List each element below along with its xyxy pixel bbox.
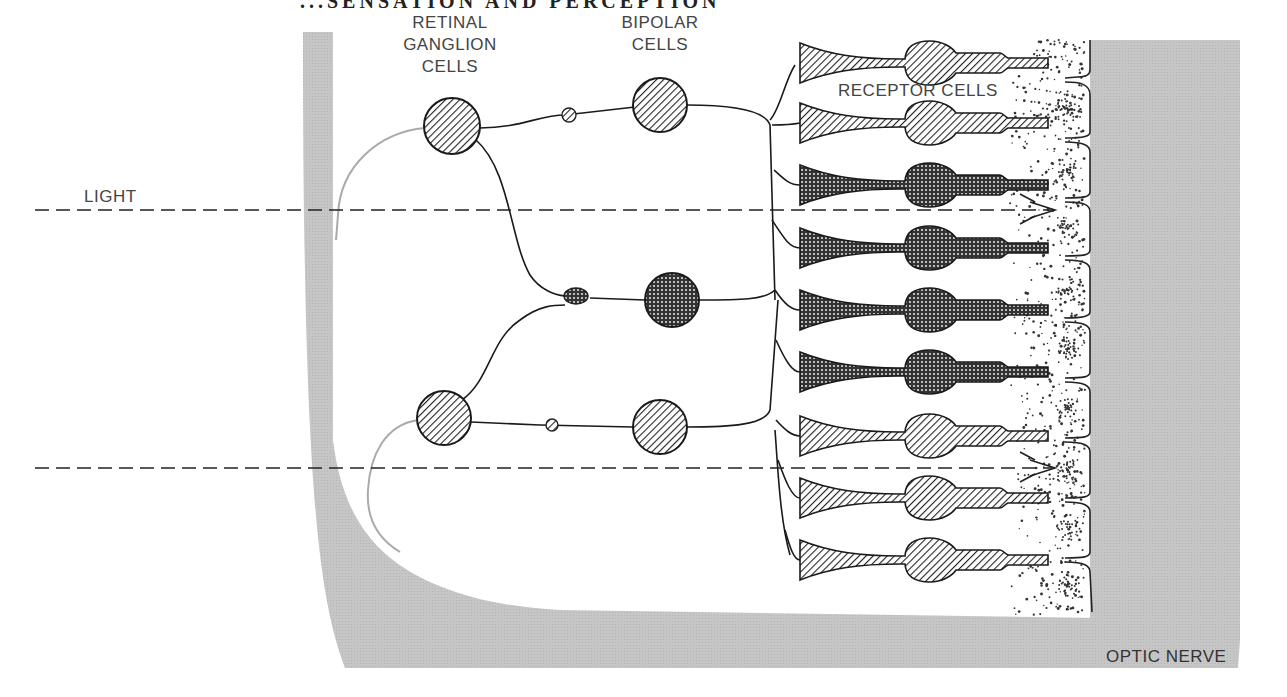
label-line: RETINAL xyxy=(395,12,505,34)
bipolar-cell xyxy=(645,273,699,327)
bipolar-cell xyxy=(633,400,687,454)
retina-diagram: ...SENSATION AND PERCEPTION xyxy=(0,0,1287,697)
ganglion-cell xyxy=(424,98,480,154)
label-optic-nerve: OPTIC NERVE xyxy=(1106,646,1226,668)
label-light: LIGHT xyxy=(84,186,137,208)
label-receptor-cells: RECEPTOR CELLS xyxy=(838,80,998,102)
label-bipolar-cells: BIPOLAR CELLS xyxy=(605,12,715,56)
label-line: BIPOLAR xyxy=(605,12,715,34)
ganglion-cell xyxy=(417,391,471,445)
label-line: CELLS xyxy=(605,34,715,56)
label-retinal-ganglion-cells: RETINAL GANGLION CELLS xyxy=(395,12,505,78)
diagram-canvas xyxy=(0,0,1287,697)
label-line: GANGLION xyxy=(395,34,505,56)
label-line: CELLS xyxy=(395,56,505,78)
receptor-cells xyxy=(800,41,1048,582)
bipolar-cell xyxy=(633,78,687,132)
